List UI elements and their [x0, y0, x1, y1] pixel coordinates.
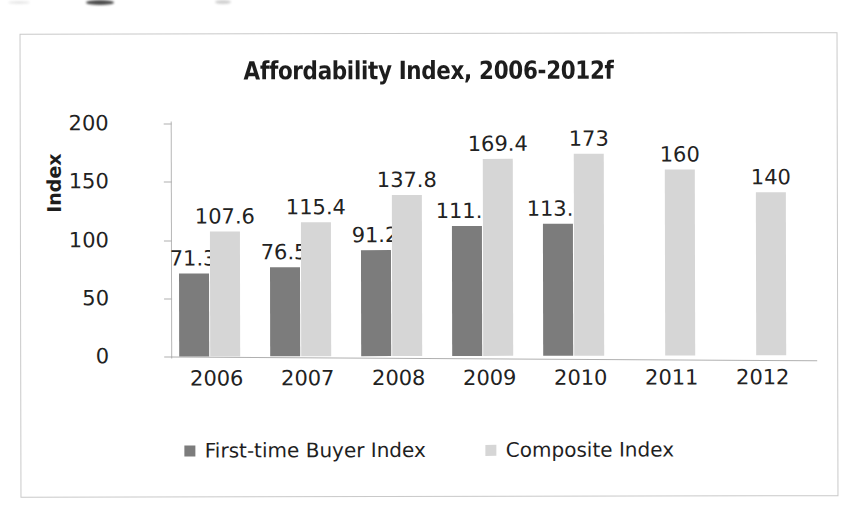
y-axis-tick-label: 50: [39, 288, 109, 309]
bar-first-time-buyer-2010[interactable]: 113.6: [543, 223, 573, 355]
bar-composite-2012[interactable]: 140: [756, 192, 786, 355]
scan-artifact-top-corner: [8, 1, 30, 4]
chart-frame: Affordability Index, 2006-2012f Index 05…: [20, 32, 839, 498]
scan-artifact-top-mid: [215, 0, 231, 4]
bar-group: 113.6173: [535, 123, 626, 356]
bar-value-label: 115.4: [286, 197, 346, 218]
bar-value-label: 137.8: [377, 170, 437, 191]
bar-first-time-buyer-2008[interactable]: 91.2: [361, 250, 391, 356]
bar-value-label: 140: [751, 167, 791, 188]
y-axis-tick: [164, 357, 172, 358]
chart-title: Affordability Index, 2006-2012f: [78, 55, 780, 85]
bar-group: 160: [626, 122, 717, 355]
bar-first-time-buyer-2006[interactable]: 71.3: [179, 273, 209, 356]
x-axis-tick-label-2011: 2011: [626, 365, 717, 389]
bar-composite-2009[interactable]: 169.4: [483, 158, 513, 355]
x-axis-tick-label-2012: 2012: [717, 365, 808, 389]
bar-value-label: 107.6: [195, 206, 255, 227]
legend-label: First-time Buyer Index: [205, 438, 426, 462]
x-axis-tick-label-2010: 2010: [535, 366, 626, 390]
bar-composite-2007[interactable]: 115.4: [301, 222, 331, 357]
bar-group: 71.3107.6: [171, 123, 262, 356]
y-axis-tick-label: 200: [39, 113, 109, 134]
scan-artifact-top-left: [86, 0, 114, 5]
legend-swatch-icon: [486, 444, 497, 455]
bar-value-label: 169.4: [468, 133, 528, 154]
y-axis-tick-label: 100: [39, 230, 109, 251]
bar-group: 76.5115.4: [262, 123, 353, 356]
y-axis-tick-label: 0: [39, 346, 109, 367]
x-axis-tick-label-2007: 2007: [262, 366, 353, 390]
bar-value-label: 173: [569, 129, 609, 150]
bar-group: 140: [717, 122, 808, 355]
bar-first-time-buyer-2009[interactable]: 111.9: [452, 226, 482, 356]
x-axis-tick-label-2009: 2009: [444, 366, 535, 390]
legend-item-first-time-buyer[interactable]: First-time Buyer Index: [185, 438, 426, 463]
bar-composite-2006[interactable]: 107.6: [210, 231, 240, 356]
bar-first-time-buyer-2007[interactable]: 76.5: [270, 267, 300, 356]
legend-label: Composite Index: [506, 437, 674, 461]
y-axis-ticks: 050100150200: [21, 33, 837, 35]
bar-composite-2011[interactable]: 160: [665, 169, 695, 355]
chart-legend: First-time Buyer IndexComposite Index: [21, 437, 837, 463]
y-axis-tick-label: 150: [39, 171, 109, 192]
legend-item-composite[interactable]: Composite Index: [486, 437, 674, 461]
bar-composite-2010[interactable]: 173: [574, 154, 604, 356]
x-axis-tick-label-2008: 2008: [353, 366, 444, 390]
x-axis-tick-label-2006: 2006: [171, 366, 262, 390]
bar-composite-2008[interactable]: 137.8: [392, 195, 422, 356]
bar-value-label: 160: [660, 144, 700, 165]
bar-group: 91.2137.8: [353, 123, 444, 356]
x-axis-line: [171, 357, 817, 362]
bar-group: 111.9169.4: [444, 123, 535, 356]
legend-swatch-icon: [185, 445, 196, 456]
x-axis-tick-labels: 2006200720082009201020112012: [21, 33, 837, 35]
plot-area: 71.3107.676.5115.491.2137.8111.9169.4113…: [171, 122, 831, 356]
